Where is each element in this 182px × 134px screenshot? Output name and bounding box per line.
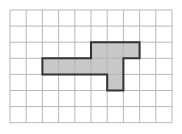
shaded-cell <box>91 58 107 74</box>
shaded-cell <box>75 58 91 74</box>
shaded-cell <box>91 42 107 58</box>
grid-diagram <box>0 0 182 134</box>
shaded-cell <box>107 58 123 74</box>
shaded-cell <box>107 42 123 58</box>
shaded-cell <box>107 74 123 90</box>
shaded-cell <box>123 42 139 58</box>
shaded-cell <box>42 58 58 74</box>
shaded-cell <box>59 58 75 74</box>
